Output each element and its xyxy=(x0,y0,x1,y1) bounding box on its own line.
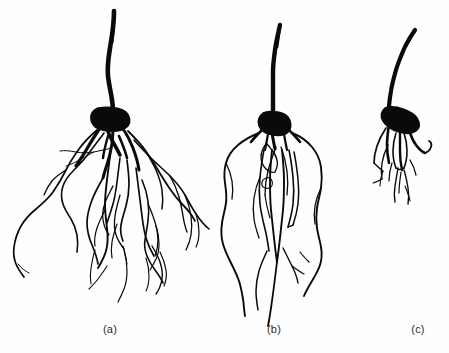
root-systems-illustration xyxy=(0,0,449,353)
panel-caption-b: (b) xyxy=(254,323,294,335)
seed-crown-b xyxy=(258,112,291,136)
panel-caption-a: (a) xyxy=(90,323,130,335)
panel-caption-c: (c) xyxy=(398,323,438,335)
figure-container: (a) (b) (c) xyxy=(0,0,449,353)
